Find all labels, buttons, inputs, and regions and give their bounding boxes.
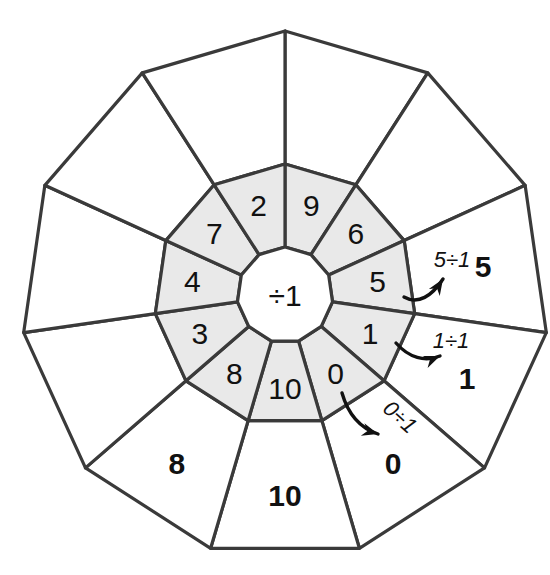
inner-sector-label-10: 2 (250, 189, 267, 222)
inner-sector-label-1: 6 (347, 217, 364, 250)
outer-sector-answer-5: 10 (268, 479, 301, 512)
inner-sector-label-9: 7 (206, 217, 223, 250)
inner-sector-label-6: 8 (226, 357, 243, 390)
inner-sector-label-0: 9 (303, 189, 320, 222)
division-wheel-figure: ÷1 965511001010883472 5÷11÷10÷1 (0, 0, 550, 575)
inner-sector-label-2: 5 (369, 265, 386, 298)
inner-sector-label-8: 4 (184, 265, 201, 298)
outer-sector-answer-4: 0 (385, 447, 402, 480)
wheel-diagram: ÷1 965511001010883472 5÷11÷10÷1 (0, 0, 550, 575)
hub-label: ÷1 (268, 279, 301, 312)
annot-1-label: 1÷1 (433, 328, 470, 353)
hub: ÷1 (237, 247, 332, 341)
inner-sector-label-5: 10 (268, 372, 301, 405)
inner-sector-label-7: 3 (191, 317, 208, 350)
inner-sector-label-4: 0 (327, 357, 344, 390)
outer-sector-answer-2: 5 (475, 250, 492, 283)
inner-sector-label-3: 1 (362, 317, 379, 350)
annot-5-label: 5÷1 (434, 247, 471, 272)
outer-sector-answer-6: 8 (168, 447, 185, 480)
outer-sector-answer-3: 1 (459, 362, 476, 395)
